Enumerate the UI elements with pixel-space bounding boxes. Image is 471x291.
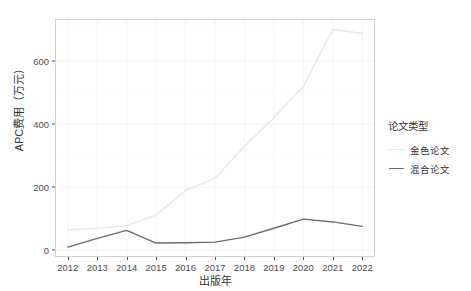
- x-tick-mark: [186, 257, 187, 260]
- x-axis: 2012201320142015201620172018201920202021…: [55, 257, 375, 273]
- legend-item[interactable]: 金色论文: [388, 141, 468, 158]
- legend-item[interactable]: 混合论文: [388, 160, 468, 177]
- gridlines: [56, 20, 374, 256]
- y-tick-label: 0: [44, 245, 49, 256]
- y-axis-title: APC费用（万元）: [10, 27, 26, 187]
- legend: 论文类型 金色论文混合论文: [388, 118, 468, 179]
- x-tick-mark: [68, 257, 69, 260]
- x-tick-mark: [97, 257, 98, 260]
- legend-line-icon: [388, 143, 405, 156]
- x-tick-mark: [156, 257, 157, 260]
- chart-container: APC费用（万元） 0200400600 2012201320142015201…: [0, 0, 471, 291]
- x-tick-mark: [127, 257, 128, 260]
- plot-svg: [56, 20, 374, 256]
- top-cutoff-strip: [330, 0, 471, 11]
- legend-title: 论文类型: [388, 118, 468, 133]
- legend-line-icon: [388, 162, 405, 175]
- legend-item-label: 混合论文: [410, 162, 450, 176]
- y-axis: APC费用（万元） 0200400600: [0, 19, 55, 257]
- x-tick-mark: [274, 257, 275, 260]
- x-tick-mark: [244, 257, 245, 260]
- x-axis-title: 出版年: [55, 272, 375, 288]
- y-tick-label: 200: [33, 182, 49, 193]
- y-tick-label: 600: [33, 56, 49, 67]
- legend-item-label: 金色论文: [410, 143, 450, 157]
- x-tick-mark: [333, 257, 334, 260]
- y-tick-label: 400: [33, 119, 49, 130]
- x-tick-mark: [215, 257, 216, 260]
- plot-panel: [55, 19, 375, 257]
- legend-items: 金色论文混合论文: [388, 141, 468, 177]
- x-tick-mark: [362, 257, 363, 260]
- x-tick-mark: [303, 257, 304, 260]
